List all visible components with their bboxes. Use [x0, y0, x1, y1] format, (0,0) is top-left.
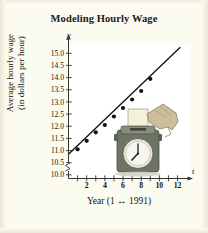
- data-point: [121, 106, 125, 110]
- data-point: [148, 77, 152, 81]
- y-axis-break-icon: [66, 163, 71, 171]
- data-point: [112, 114, 116, 118]
- figure-panel: Modeling Hourly Wage y t Average hourly …: [0, 0, 208, 233]
- clock-card-slot: [130, 128, 146, 131]
- data-point: [130, 97, 134, 101]
- chart-svg: [0, 0, 208, 233]
- clock-knob-right: [158, 134, 162, 141]
- clock-shadow: [115, 172, 161, 177]
- data-point: [94, 130, 98, 134]
- clock-center-pin: [137, 152, 139, 154]
- clock-knob-left: [114, 134, 118, 141]
- data-point: [75, 147, 79, 151]
- time-clock-illustration: [114, 104, 178, 176]
- data-point: [85, 139, 89, 143]
- data-point: [103, 123, 107, 127]
- data-point: [139, 89, 143, 93]
